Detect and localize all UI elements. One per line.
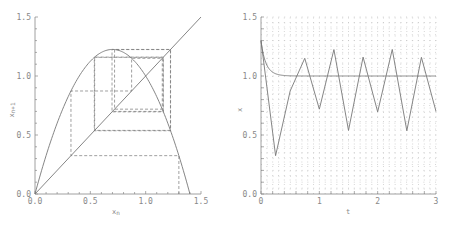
time-series-chart: 0 1 2 3 0.0 0.5 1.0 1.5 t x: [236, 13, 439, 216]
right-xtick-3: 3: [434, 197, 439, 206]
figure: 0.0 0.5 1.0 1.5 0.0 0.5 1.0 1.5 xn xn+1 …: [0, 0, 449, 229]
right-y-axis-label: x: [236, 108, 244, 112]
left-ytick-2: 1.0: [17, 72, 32, 81]
cobweb-path: [71, 49, 179, 194]
map-curve: [35, 49, 190, 194]
right-ytick-2: 1.0: [243, 72, 258, 81]
right-xtick-0: 0: [259, 197, 264, 206]
cobweb-chart: 0.0 0.5 1.0 1.5 0.0 0.5 1.0 1.5 xn xn+1: [8, 13, 208, 216]
left-y-axis-label: xn+1: [8, 102, 16, 117]
left-x-axis-label: xn: [112, 208, 120, 216]
right-x-axis-label: t: [346, 208, 350, 216]
right-xtick-1: 1: [317, 197, 322, 206]
left-ytick-1: 0.5: [17, 131, 32, 140]
left-xtick-2: 1.0: [138, 197, 153, 206]
right-xtick-2: 2: [375, 197, 380, 206]
right-ytick-1: 0.5: [243, 131, 258, 140]
left-plot-series: [35, 17, 201, 194]
left-xtick-1: 0.5: [83, 197, 98, 206]
discrete-iterates-line: [261, 41, 436, 156]
left-ytick-0: 0.0: [17, 190, 32, 199]
right-ytick-0: 0.0: [243, 190, 258, 199]
left-xtick-3: 1.5: [194, 197, 209, 206]
right-plot-series: [261, 41, 436, 156]
diagonal-line: [35, 17, 201, 194]
left-ytick-3: 1.5: [17, 13, 32, 22]
right-ytick-3: 1.5: [243, 13, 258, 22]
